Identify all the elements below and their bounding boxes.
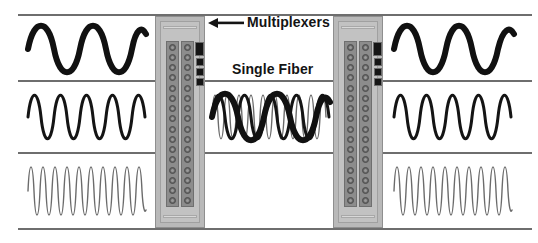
port[interactable]: [184, 64, 191, 71]
port[interactable]: [362, 146, 369, 153]
port[interactable]: [169, 156, 176, 163]
port[interactable]: [169, 115, 176, 122]
port[interactable]: [184, 167, 191, 174]
multiplexer-left-port-column-1[interactable]: [166, 41, 179, 207]
status-led-3-icon: [374, 68, 382, 76]
port[interactable]: [347, 177, 354, 184]
multiplexer-right-bottom-bar: [341, 215, 375, 218]
multiplexer-left[interactable]: [155, 16, 205, 228]
multiplexer-right[interactable]: [333, 16, 383, 228]
rule-bottom-left: [18, 228, 418, 230]
port[interactable]: [362, 74, 369, 81]
port[interactable]: [347, 156, 354, 163]
status-led-4-icon: [196, 78, 204, 86]
multiplexer-left-status-leds: [195, 42, 204, 86]
port[interactable]: [169, 105, 176, 112]
status-led-1-icon: [373, 42, 382, 56]
port[interactable]: [347, 187, 354, 194]
port[interactable]: [169, 85, 176, 92]
port[interactable]: [362, 54, 369, 61]
port[interactable]: [169, 187, 176, 194]
port[interactable]: [362, 197, 369, 204]
port[interactable]: [184, 146, 191, 153]
port[interactable]: [347, 115, 354, 122]
port[interactable]: [362, 126, 369, 133]
port[interactable]: [347, 85, 354, 92]
arrow-left-icon: [207, 16, 245, 30]
status-led-2-icon: [374, 58, 382, 66]
rule-bottom-right: [380, 228, 532, 230]
port[interactable]: [362, 136, 369, 143]
port[interactable]: [347, 54, 354, 61]
multiplexer-left-port-column-2[interactable]: [181, 41, 194, 207]
port[interactable]: [169, 54, 176, 61]
waveform-input-mid-frequency: [26, 86, 148, 148]
single-fiber-label: Single Fiber: [232, 61, 313, 77]
port[interactable]: [169, 167, 176, 174]
port[interactable]: [362, 177, 369, 184]
status-led-3-icon: [196, 68, 204, 76]
waveform-output-high-frequency: [392, 158, 516, 224]
wdm-diagram: Multiplexers Single Fiber: [0, 0, 538, 243]
port[interactable]: [169, 146, 176, 153]
port[interactable]: [184, 54, 191, 61]
waveform-input-high-frequency: [26, 158, 148, 224]
port[interactable]: [362, 115, 369, 122]
multiplexers-label: Multiplexers: [247, 14, 330, 30]
status-led-4-icon: [374, 78, 382, 86]
port[interactable]: [347, 167, 354, 174]
port[interactable]: [184, 197, 191, 204]
port[interactable]: [169, 95, 176, 102]
port[interactable]: [169, 64, 176, 71]
port[interactable]: [184, 95, 191, 102]
port[interactable]: [362, 105, 369, 112]
port[interactable]: [184, 105, 191, 112]
port[interactable]: [184, 136, 191, 143]
port[interactable]: [362, 167, 369, 174]
rule-channel-1-2-right: [380, 80, 532, 82]
port[interactable]: [184, 115, 191, 122]
multiplexer-right-port-column-2[interactable]: [359, 41, 372, 207]
port[interactable]: [184, 126, 191, 133]
port[interactable]: [184, 85, 191, 92]
status-led-1-icon: [195, 42, 204, 56]
port[interactable]: [347, 95, 354, 102]
port[interactable]: [347, 146, 354, 153]
port[interactable]: [184, 44, 191, 51]
multiplexer-left-bottom-bar: [163, 215, 197, 218]
port[interactable]: [362, 44, 369, 51]
waveform-multiplexed-fiber: [210, 86, 332, 148]
multiplexer-left-top-bar: [163, 26, 197, 29]
rule-channel-2-3-right: [380, 152, 532, 154]
port[interactable]: [362, 64, 369, 71]
port[interactable]: [362, 85, 369, 92]
port[interactable]: [169, 136, 176, 143]
port[interactable]: [347, 136, 354, 143]
waveform-output-low-frequency: [392, 20, 516, 78]
port[interactable]: [169, 44, 176, 51]
port[interactable]: [347, 197, 354, 204]
port[interactable]: [347, 44, 354, 51]
port[interactable]: [184, 187, 191, 194]
port[interactable]: [347, 64, 354, 71]
port[interactable]: [362, 95, 369, 102]
waveform-output-mid-frequency: [392, 86, 516, 148]
rule-top-right: [380, 14, 532, 16]
port[interactable]: [184, 74, 191, 81]
multiplexer-right-top-bar: [341, 26, 375, 29]
multiplexer-right-status-leds: [373, 42, 382, 86]
port[interactable]: [184, 177, 191, 184]
port[interactable]: [169, 126, 176, 133]
waveform-input-low-frequency: [26, 20, 148, 78]
port[interactable]: [347, 126, 354, 133]
port[interactable]: [184, 156, 191, 163]
port[interactable]: [362, 156, 369, 163]
port[interactable]: [347, 74, 354, 81]
port[interactable]: [347, 105, 354, 112]
port[interactable]: [169, 74, 176, 81]
port[interactable]: [362, 187, 369, 194]
multiplexer-right-port-column-1[interactable]: [344, 41, 357, 207]
status-led-2-icon: [196, 58, 204, 66]
port[interactable]: [169, 197, 176, 204]
port[interactable]: [169, 177, 176, 184]
